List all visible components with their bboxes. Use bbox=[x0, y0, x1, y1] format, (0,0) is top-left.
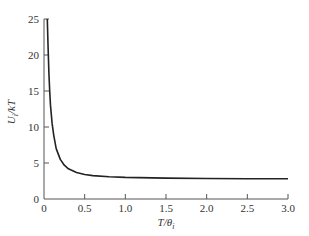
y-tick-label: 15 bbox=[28, 85, 40, 97]
x-tick-label: 2.0 bbox=[200, 202, 214, 214]
series-line bbox=[47, 19, 288, 179]
y-tick-label: 5 bbox=[34, 157, 40, 169]
x-tick-label: 1.0 bbox=[118, 202, 132, 214]
x-tick-label: 3.0 bbox=[281, 202, 295, 214]
x-axis-label: T/θi bbox=[158, 216, 175, 231]
y-axis-label: Ui/kT bbox=[5, 99, 20, 124]
y-tick-label: 20 bbox=[28, 49, 40, 61]
x-tick-label: 0.5 bbox=[78, 202, 92, 214]
data-curve bbox=[47, 19, 288, 179]
x-tick-label: 0 bbox=[41, 202, 47, 214]
x-tick-label: 2.5 bbox=[240, 202, 254, 214]
x-tick-label: 1.5 bbox=[159, 202, 173, 214]
y-tick-label: 0 bbox=[34, 193, 40, 205]
y-tick-label: 25 bbox=[28, 13, 40, 25]
y-tick-label: 10 bbox=[28, 121, 40, 133]
chart: 00.51.01.52.02.53.00510152025 T/θi Ui/kT bbox=[0, 0, 309, 236]
axes bbox=[44, 19, 288, 199]
ticks: 00.51.01.52.02.53.00510152025 bbox=[28, 13, 295, 214]
